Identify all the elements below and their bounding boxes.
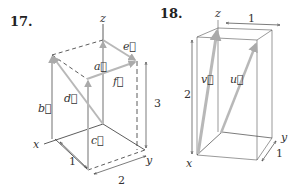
vector-e-label: e⃗ bbox=[123, 40, 136, 53]
x-axis-label: x bbox=[33, 138, 40, 151]
dimension-x: 1 bbox=[248, 12, 255, 25]
vector-a-label: a⃗ bbox=[94, 60, 107, 73]
vector-d-label: d⃗ bbox=[64, 92, 78, 105]
dimension-y: 1 bbox=[276, 147, 283, 160]
z-axis-label: z bbox=[214, 7, 221, 20]
dimension-z: 3 bbox=[154, 97, 161, 110]
dimension-z: 2 bbox=[184, 88, 191, 101]
vector-c-label: c⃗ bbox=[91, 134, 104, 147]
dimension-x: 1 bbox=[69, 155, 76, 168]
vector-u bbox=[221, 44, 256, 133]
y-axis bbox=[103, 124, 145, 150]
x-axis-label: x bbox=[186, 157, 193, 170]
figure-18: z x y v⃗ u⃗ 2 1 1 bbox=[184, 7, 288, 170]
figures-canvas: z x y a⃗ b⃗ c⃗ d⃗ e⃗ f⃗ 3 1 2 z x bbox=[0, 0, 302, 194]
dimension-y: 2 bbox=[118, 174, 125, 187]
y-axis-label: y bbox=[280, 131, 288, 144]
vector-b-label: b⃗ bbox=[38, 102, 52, 115]
vector-u-label: u⃗ bbox=[230, 73, 244, 86]
y-axis bbox=[222, 132, 272, 138]
vector-f-label: f⃗ bbox=[112, 75, 124, 88]
y-axis-label: y bbox=[145, 154, 153, 167]
vector-v-label: v⃗ bbox=[201, 73, 214, 86]
figure-17: z x y a⃗ b⃗ c⃗ d⃗ e⃗ f⃗ 3 1 2 bbox=[33, 12, 161, 187]
vector-v bbox=[198, 31, 217, 154]
z-axis-label: z bbox=[99, 12, 106, 25]
